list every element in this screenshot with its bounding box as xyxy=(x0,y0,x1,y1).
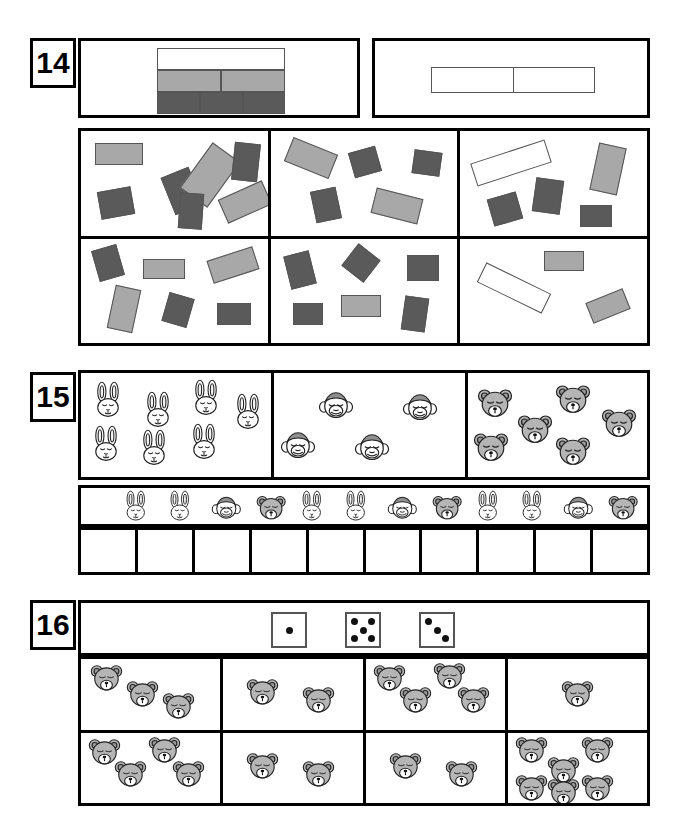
rabbit-icon xyxy=(191,379,221,417)
rabbit-icon xyxy=(93,381,123,419)
rabbit-icon xyxy=(143,391,173,429)
rectangle-dark-gray xyxy=(411,149,442,177)
key-row-light-gray-2 xyxy=(221,70,285,92)
pattern-item xyxy=(207,490,251,526)
answer-box[interactable] xyxy=(195,530,249,572)
rectangle-dark-gray xyxy=(231,142,261,183)
rectangle-scatter-cell[interactable] xyxy=(271,239,458,344)
bear-count-cell[interactable] xyxy=(223,733,362,804)
bear-count-cell[interactable] xyxy=(81,733,220,804)
answer-box[interactable] xyxy=(309,530,363,572)
key-row-dark-gray-3 xyxy=(243,92,285,114)
animal-group-rabbit[interactable] xyxy=(81,373,271,477)
bear-icon xyxy=(600,407,638,440)
exercise-14-key-frame xyxy=(78,38,360,118)
rectangle-light-gray xyxy=(95,143,143,165)
rabbit-icon xyxy=(343,490,369,522)
key-row-white xyxy=(157,48,285,70)
rectangle-dark-gray xyxy=(310,187,342,224)
rabbit-icon xyxy=(519,490,545,522)
key-row-dark-gray-2 xyxy=(200,92,243,114)
rectangle-light-gray xyxy=(586,288,631,323)
bear-count-cell[interactable] xyxy=(81,659,220,730)
bear-icon xyxy=(472,431,510,464)
bear-icon xyxy=(476,387,514,420)
bear-icon xyxy=(255,494,287,522)
bear-count-cell[interactable] xyxy=(366,733,505,804)
exercise-16-dice-frame xyxy=(78,600,650,656)
dice-pip xyxy=(425,618,432,625)
rectangle-white xyxy=(477,262,551,313)
bear-icon xyxy=(245,677,280,707)
exercise-15-number-badge: 15 xyxy=(30,372,76,422)
bear-count-cell[interactable] xyxy=(366,659,505,730)
exercise-14-answer-frame xyxy=(372,38,650,118)
answer-box[interactable] xyxy=(252,530,306,572)
rectangle-scatter-cell[interactable] xyxy=(81,131,268,236)
rectangle-dark-gray xyxy=(407,255,439,281)
exercise-15-number: 15 xyxy=(36,382,69,412)
dice-face-3[interactable] xyxy=(419,612,455,648)
exercise-15-group-panels xyxy=(78,370,650,480)
animal-group-monkey[interactable] xyxy=(274,373,464,477)
rabbit-icon xyxy=(139,429,169,467)
rectangle-dark-gray xyxy=(341,243,380,282)
monkey-icon xyxy=(280,429,316,462)
bear-icon xyxy=(89,663,124,693)
rectangle-dark-gray xyxy=(97,186,135,219)
rabbit-icon xyxy=(475,490,501,522)
pattern-sequence xyxy=(119,490,647,526)
pattern-item xyxy=(339,490,383,526)
dice-face-5[interactable] xyxy=(345,612,381,648)
answer-box[interactable] xyxy=(479,530,533,572)
rectangle-light-gray xyxy=(218,180,268,223)
answer-box[interactable] xyxy=(536,530,590,572)
dice-face-1[interactable] xyxy=(271,612,307,648)
bear-icon xyxy=(398,685,433,715)
pattern-item xyxy=(383,490,427,526)
bear-icon xyxy=(560,679,595,709)
rectangle-scatter-cell[interactable] xyxy=(81,239,268,344)
animal-group-bear[interactable] xyxy=(468,373,647,477)
answer-box[interactable] xyxy=(593,530,647,572)
dice-pip xyxy=(368,635,375,642)
key-row-dark-gray-1 xyxy=(157,92,200,114)
answer-box[interactable] xyxy=(81,530,135,572)
bear-icon xyxy=(171,759,206,789)
bear-icon xyxy=(554,383,592,416)
bear-icon xyxy=(546,777,581,804)
rectangle-light-gray xyxy=(107,284,142,332)
rectangle-scatter-cell[interactable] xyxy=(271,131,458,236)
bear-count-cell[interactable] xyxy=(508,659,647,730)
monkey-icon xyxy=(402,391,438,424)
answer-box[interactable] xyxy=(422,530,476,572)
key-row-light-gray-1 xyxy=(157,70,221,92)
rectangle-light-gray xyxy=(284,137,338,179)
rectangle-scatter-cell[interactable] xyxy=(460,131,647,236)
pattern-item xyxy=(119,490,163,526)
rectangle-dark-gray xyxy=(217,303,251,325)
bear-icon xyxy=(245,751,280,781)
rectangle-scatter-cell[interactable] xyxy=(460,239,647,344)
rectangle-color-key xyxy=(157,48,285,114)
bear-count-cell[interactable] xyxy=(508,733,647,804)
rectangle-dark-gray xyxy=(348,146,382,179)
bear-icon xyxy=(113,759,148,789)
answer-box[interactable] xyxy=(138,530,192,572)
rectangle-light-gray xyxy=(143,259,185,279)
rabbit-icon xyxy=(189,423,219,461)
bear-icon xyxy=(456,685,491,715)
exercise-14-answer-boxes xyxy=(431,67,595,93)
rectangle-dark-gray xyxy=(487,191,524,226)
bear-icon xyxy=(580,735,615,765)
bear-icon xyxy=(125,679,160,709)
rabbit-icon xyxy=(233,393,263,431)
rectangle-light-gray xyxy=(370,188,423,225)
answer-box[interactable] xyxy=(366,530,420,572)
bear-icon xyxy=(444,759,479,789)
answer-box[interactable] xyxy=(514,67,596,93)
bear-count-cell[interactable] xyxy=(223,659,362,730)
answer-box[interactable] xyxy=(431,67,514,93)
dice-pip xyxy=(434,627,441,634)
pattern-item xyxy=(427,490,471,526)
